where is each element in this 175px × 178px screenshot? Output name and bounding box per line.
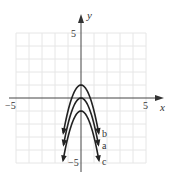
- y-axis-label: y: [86, 9, 92, 21]
- x-tick-min: −5: [5, 100, 16, 111]
- curve-label-a: a: [102, 140, 107, 151]
- y-tick-min: −5: [68, 157, 79, 168]
- arrowhead-icon: [95, 155, 101, 162]
- curve-label-c: c: [102, 156, 107, 167]
- parabola-chart: x y −5 5 5 −5 b a c: [0, 0, 175, 178]
- x-axis-label: x: [159, 101, 165, 113]
- y-tick-max: 5: [71, 28, 76, 39]
- curve-label-b: b: [102, 128, 107, 139]
- y-axis-arrow-icon: [78, 14, 84, 23]
- x-tick-max: 5: [143, 100, 148, 111]
- axes: [9, 14, 164, 172]
- arrowhead-icon: [61, 155, 67, 162]
